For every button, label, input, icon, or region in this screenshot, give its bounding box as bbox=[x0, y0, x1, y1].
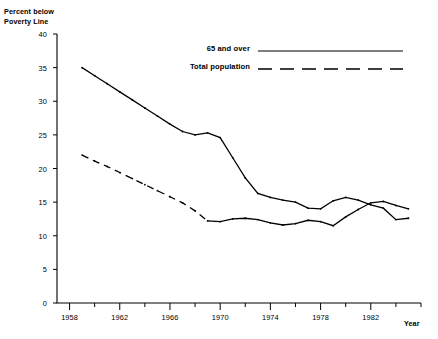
data-point bbox=[131, 99, 133, 101]
data-point bbox=[332, 225, 334, 227]
data-point bbox=[320, 208, 322, 210]
data-point bbox=[182, 202, 184, 204]
data-point bbox=[282, 224, 284, 226]
data-point bbox=[408, 208, 410, 210]
data-point bbox=[194, 134, 196, 136]
data-point bbox=[81, 67, 83, 69]
data-point bbox=[106, 83, 108, 85]
data-point bbox=[219, 221, 221, 223]
data-point bbox=[345, 216, 347, 218]
data-point bbox=[94, 160, 96, 162]
poverty-line-chart: Percent below Poverty Line Year 05101520… bbox=[0, 0, 438, 339]
series-line-0 bbox=[82, 68, 408, 220]
series-line-1 bbox=[208, 201, 409, 225]
data-point bbox=[119, 172, 121, 174]
data-point bbox=[131, 178, 133, 180]
data-point bbox=[408, 217, 410, 219]
data-point bbox=[395, 219, 397, 221]
legend-label-65-and-over: 65 and over bbox=[180, 44, 250, 53]
data-point bbox=[257, 219, 259, 221]
data-point bbox=[395, 205, 397, 207]
data-point bbox=[382, 207, 384, 209]
data-point bbox=[232, 218, 234, 220]
series-layer bbox=[81, 67, 409, 227]
data-point bbox=[157, 115, 159, 117]
data-point bbox=[257, 192, 259, 194]
data-point bbox=[94, 75, 96, 77]
data-point bbox=[295, 201, 297, 203]
data-point bbox=[182, 131, 184, 133]
data-point bbox=[244, 217, 246, 219]
data-point bbox=[232, 157, 234, 159]
data-point bbox=[244, 177, 246, 179]
data-point bbox=[357, 209, 359, 211]
data-point bbox=[282, 199, 284, 201]
data-point bbox=[157, 190, 159, 192]
data-point bbox=[320, 221, 322, 223]
data-point bbox=[207, 220, 209, 222]
data-point bbox=[307, 219, 309, 221]
data-point bbox=[295, 223, 297, 225]
data-point bbox=[207, 132, 209, 134]
series-line-dashed-1 bbox=[82, 155, 208, 221]
data-point bbox=[106, 166, 108, 168]
data-point bbox=[370, 204, 372, 206]
data-point bbox=[119, 91, 121, 93]
data-point bbox=[370, 202, 372, 204]
data-point bbox=[144, 184, 146, 186]
data-point bbox=[332, 200, 334, 202]
axes-layer bbox=[53, 34, 421, 310]
legend-label-total-population: Total population bbox=[160, 62, 250, 71]
data-point bbox=[382, 201, 384, 203]
legend-swatch-layer bbox=[258, 51, 403, 69]
data-point bbox=[169, 196, 171, 198]
data-point bbox=[144, 107, 146, 109]
data-point bbox=[269, 197, 271, 199]
data-point bbox=[81, 154, 83, 156]
data-point bbox=[194, 210, 196, 212]
data-point bbox=[169, 123, 171, 125]
data-point bbox=[345, 197, 347, 199]
data-point bbox=[219, 137, 221, 139]
data-point bbox=[357, 199, 359, 201]
data-point bbox=[269, 222, 271, 224]
data-point bbox=[307, 207, 309, 209]
